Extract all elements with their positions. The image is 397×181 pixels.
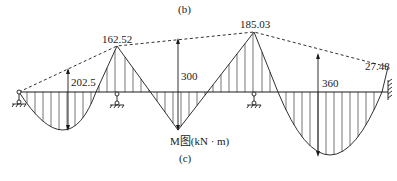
label-span-2-max: 300 — [181, 70, 198, 82]
diagram-title: M图(kN · m) — [170, 135, 230, 148]
right-fixed-support — [388, 79, 392, 100]
support-3 — [247, 92, 261, 108]
top-caption: (b) — [178, 3, 191, 16]
span-2-arrow — [176, 38, 180, 131]
label-span-1-max: 202.5 — [71, 76, 96, 88]
span-3-arrow — [316, 53, 320, 157]
span-1-hatching — [27, 50, 115, 129]
support-2 — [110, 92, 124, 108]
span-3-moment-curve — [254, 32, 388, 155]
bottom-caption: (c) — [179, 152, 192, 165]
label-support-2-moment: 162.52 — [102, 33, 132, 45]
label-fixed-end-moment: 27.48 — [365, 60, 390, 72]
bending-moment-diagram: (b) 162.52 185.03 27.48 202.5 300 360 M图… — [0, 0, 397, 181]
label-span-3-max: 360 — [322, 77, 339, 89]
span-1-arrow — [66, 68, 70, 131]
label-support-3-moment: 185.03 — [240, 18, 271, 30]
